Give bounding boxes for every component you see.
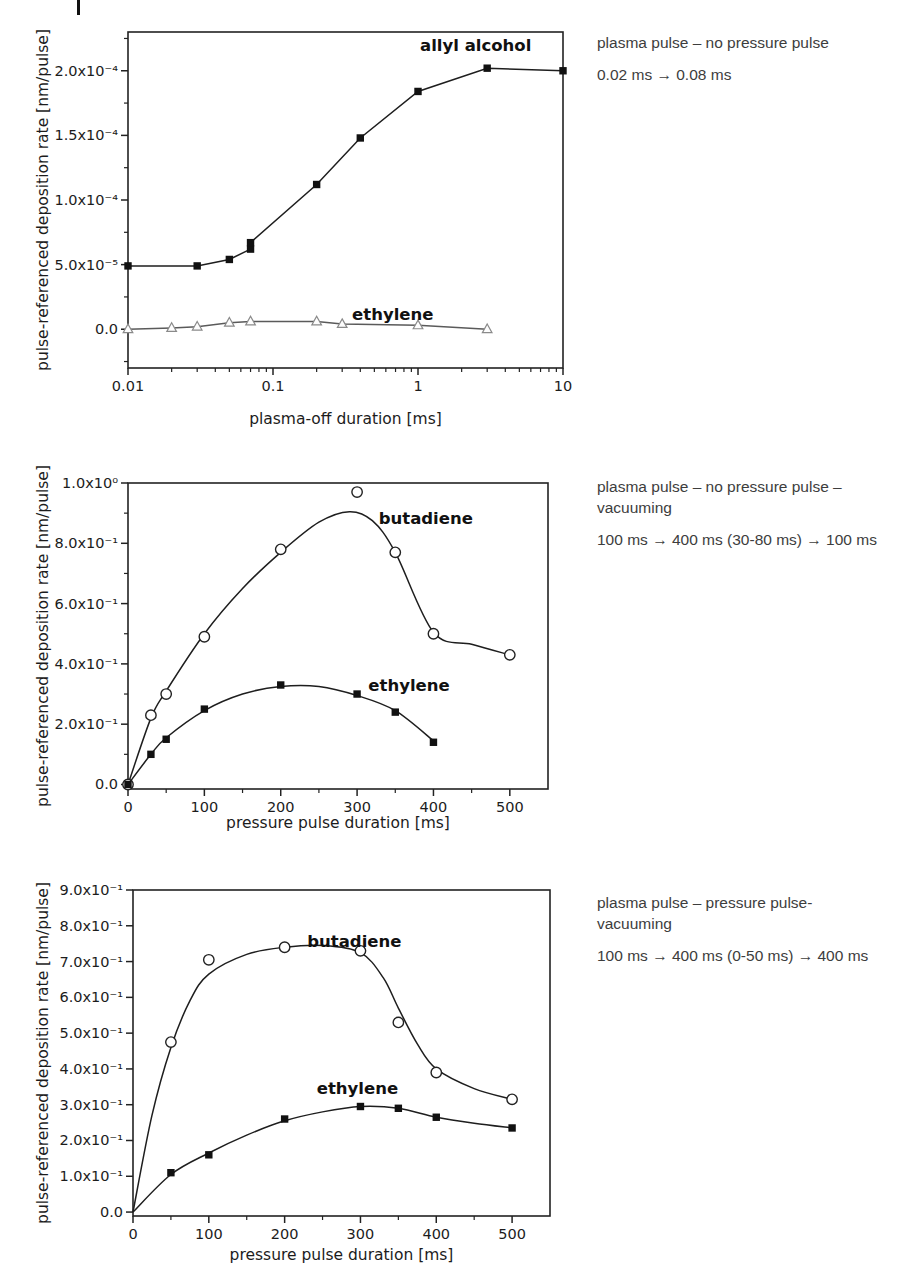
x-axis-title: pressure pulse duration [ms] [230,1246,454,1264]
data-point-square [357,1103,364,1110]
data-point-square [395,1105,402,1112]
x-tick-label: 1 [413,378,422,394]
y-tick-label: 2.0x10⁻¹ [54,716,118,732]
annotation-1: plasma pulse – no pressure pulse 0.02 ms… [597,32,912,85]
x-tick-label: 0 [123,799,132,815]
data-point-square [281,1115,288,1122]
chart-svg-2: 01002003004005000.02.0x10⁻¹4.0x10⁻¹6.0x1… [0,440,592,840]
y-tick-label: 4.0x10⁻¹ [59,1061,123,1077]
x-axis-title: pressure pulse duration [ms] [226,814,450,832]
x-tick-label: 300 [343,799,371,815]
annotation-3-title-line2: vacuuming [597,913,912,934]
y-tick-label: 1.0x10⁻¹ [59,1168,123,1184]
y-tick-label: 4.0x10⁻¹ [54,656,118,672]
data-point-square [392,708,399,715]
y-tick-label: 6.0x10⁻¹ [54,596,118,612]
data-point-square [357,134,364,141]
annotation-2-title-line2: vacuuming [597,497,912,518]
data-point-square [124,262,131,269]
y-tick-label: 8.0x10⁻¹ [54,535,118,551]
chart-svg-1: 0.010.11100.05.0x10⁻⁵1.0x10⁻⁴1.5x10⁻⁴2.0… [0,0,592,435]
data-point-circle [199,632,209,642]
data-point-square [353,690,360,697]
x-tick-label: 0.1 [261,378,284,394]
chart-pressure-pulse-vacuum: 01002003004005000.01.0x10⁻¹2.0x10⁻¹3.0x1… [0,855,592,1269]
y-axis-title: pulse-referenced deposition rate [nm/pul… [34,29,52,371]
annotation-3-title-line1: plasma pulse – pressure pulse- [597,892,912,913]
y-tick-label: 8.0x10⁻¹ [59,918,123,934]
data-point-square [508,1124,515,1131]
data-point-square [193,262,200,269]
data-point-square [147,751,154,758]
data-point-circle [204,955,214,965]
y-tick-label: 2.0x10⁻¹ [59,1132,123,1148]
x-tick-label: 200 [267,799,295,815]
data-point-square [247,239,254,246]
data-point-triangle [246,316,256,325]
y-axis-title: pulse-referenced deposition rate [nm/pul… [34,882,52,1224]
data-point-triangle [123,324,133,333]
data-point-triangle [312,316,322,325]
y-tick-label: 5.0x10⁻¹ [59,1025,123,1041]
series-label-allyl-alcohol: allyl alcohol [420,36,531,55]
chart-plasma-off-duration: 0.010.11100.05.0x10⁻⁵1.0x10⁻⁴1.5x10⁻⁴2.0… [0,0,592,439]
x-tick-label: 200 [271,1226,299,1242]
annotation-2-timing: 100 ms → 400 ms (30-80 ms) → 100 ms [597,529,912,550]
chart-svg-3: 01002003004005000.01.0x10⁻¹2.0x10⁻¹3.0x1… [0,855,592,1269]
series-label-butadiene: butadiene [379,509,473,528]
data-point-circle [428,629,438,639]
data-point-square [162,736,169,743]
data-point-circle [276,544,286,554]
data-point-circle [507,1094,517,1104]
data-point-square [430,739,437,746]
data-point-square [226,256,233,263]
x-tick-label: 0.01 [112,378,144,394]
data-point-square [559,67,566,74]
x-tick-label: 100 [191,799,219,815]
x-tick-label: 500 [496,799,524,815]
x-axis-title: plasma-off duration [ms] [249,410,442,428]
data-point-square [205,1151,212,1158]
y-tick-label: 9.0x10⁻¹ [59,882,123,898]
data-point-circle [431,1067,441,1077]
data-point-square [277,681,284,688]
y-tick-label: 1.5x10⁻⁴ [54,127,118,143]
series-line-butadiene [128,512,510,785]
y-tick-label: 0.0 [100,1204,123,1220]
data-point-square [247,245,254,252]
data-point-square [433,1114,440,1121]
y-axis-title: pulse-referenced deposition rate [nm/pul… [34,465,52,807]
data-point-circle [352,487,362,497]
series-line-ethylene [133,1106,512,1212]
data-point-circle [393,1017,403,1027]
plot-frame [128,483,548,789]
y-tick-label: 1.0x10⁰ [62,475,118,491]
annotation-2: plasma pulse – no pressure pulse – vacuu… [597,476,912,550]
plot-frame [128,32,563,368]
annotation-2-title-line1: plasma pulse – no pressure pulse – [597,476,912,497]
series-label-ethylene: ethylene [352,305,433,324]
chart-pressure-pulse-no-vacuum: 01002003004005000.02.0x10⁻¹4.0x10⁻¹6.0x1… [0,440,592,844]
data-point-circle [505,650,515,660]
data-point-circle [146,710,156,720]
data-point-square [483,64,490,71]
data-point-square [313,181,320,188]
y-tick-label: 5.0x10⁻⁵ [54,257,118,273]
y-tick-label: 0.0 [95,321,118,337]
data-point-circle [161,689,171,699]
series-label-butadiene: butadiene [307,932,401,951]
y-tick-label: 7.0x10⁻¹ [59,954,123,970]
y-tick-label: 2.0x10⁻⁴ [54,63,118,79]
x-tick-label: 0 [128,1226,137,1242]
series-label-ethylene: ethylene [317,1079,398,1098]
data-point-square [414,88,421,95]
x-tick-label: 400 [422,1226,450,1242]
data-point-circle [390,547,400,557]
x-tick-label: 10 [554,378,572,394]
y-tick-label: 1.0x10⁻⁴ [54,192,118,208]
data-point-square [167,1169,174,1176]
x-tick-label: 400 [420,799,448,815]
annotation-3: plasma pulse – pressure pulse- vacuuming… [597,892,912,966]
x-tick-label: 500 [498,1226,526,1242]
series-line-ethylene [128,685,433,784]
